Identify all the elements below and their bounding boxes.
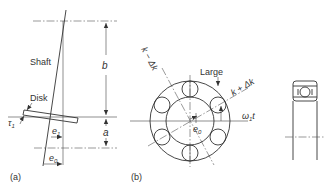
diagram-canvas: Shaft Disk τ1 e1 e0 b a (a) bbox=[0, 0, 336, 189]
k-minus-label: k − Δk bbox=[139, 45, 160, 72]
shaft-label: Shaft bbox=[30, 57, 52, 67]
e0-label: e0 bbox=[49, 153, 58, 164]
ball-bottom-left bbox=[154, 129, 170, 145]
large-label: Large bbox=[200, 67, 223, 77]
ball-bottom-right bbox=[210, 129, 226, 145]
k-minus-axis bbox=[162, 68, 214, 165]
panel-a: Shaft Disk τ1 e1 e0 b a (a) bbox=[8, 10, 117, 182]
disk-leader bbox=[27, 103, 32, 110]
dim-a-label: a bbox=[103, 127, 109, 138]
ball-top-left bbox=[154, 97, 170, 113]
panel-b-e0-label: e0 bbox=[193, 124, 202, 135]
dim-b-label: b bbox=[102, 60, 108, 71]
k-plus-label: k + Δk bbox=[229, 76, 256, 98]
panel-b-label: (b) bbox=[131, 172, 142, 182]
panel-c-bearing bbox=[285, 81, 324, 160]
disk-label: Disk bbox=[30, 93, 48, 103]
panel-b: e0 ω1t Large k + Δk k − Δk (b) bbox=[130, 45, 256, 182]
shaft-line bbox=[43, 10, 66, 166]
ball-top-right bbox=[210, 97, 226, 113]
tau-label: τ1 bbox=[8, 118, 15, 129]
bearing-ball bbox=[300, 87, 310, 97]
e1-label: e1 bbox=[52, 126, 60, 137]
panel-a-label: (a) bbox=[10, 172, 21, 182]
bearing-housing bbox=[293, 81, 317, 101]
omega-label: ω1t bbox=[242, 111, 255, 122]
